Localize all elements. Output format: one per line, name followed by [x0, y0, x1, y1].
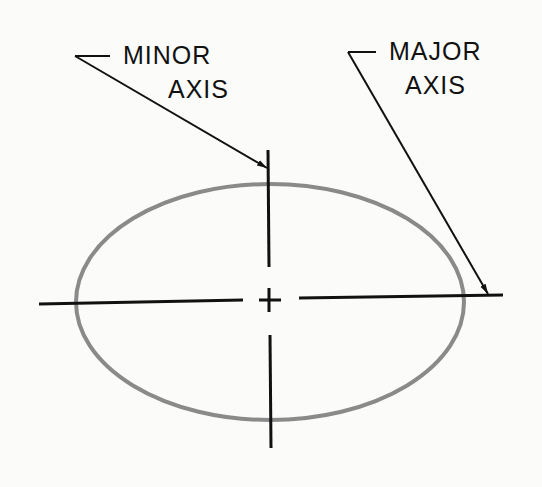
minor-axis-leader — [75, 56, 267, 168]
minor-axis-label-line1: MINOR — [123, 41, 211, 69]
major-axis-label-line1: MAJOR — [389, 37, 482, 65]
minor-axis-bottom — [270, 335, 271, 448]
center-mark-icon — [259, 288, 281, 312]
major-axis-left — [39, 300, 243, 304]
minor-axis-top — [268, 150, 269, 267]
ellipse-diagram: MINOR AXIS MAJOR AXIS — [0, 0, 542, 487]
major-axis-label-line2: AXIS — [405, 71, 466, 99]
minor-axis-label-line2: AXIS — [168, 75, 229, 103]
major-axis-right — [299, 295, 503, 298]
